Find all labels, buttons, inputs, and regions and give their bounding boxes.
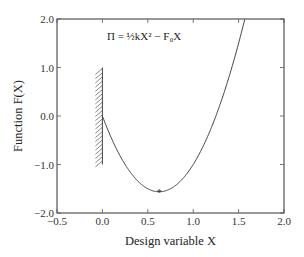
curve-line: [102, 19, 244, 192]
minimum-marker: *: [157, 187, 162, 198]
y-tick-label: 0.0: [40, 110, 54, 122]
y-tick-label: 2.0: [40, 13, 54, 25]
y-tick-label: 1.0: [40, 62, 54, 74]
svg-text:*: *: [157, 187, 162, 198]
y-tick-label: −1.0: [34, 159, 54, 171]
equation-annotation: Π = ½kX² − F₀X: [107, 30, 181, 42]
x-tick-label: 0.5: [141, 215, 155, 227]
x-tick-label: 1.0: [186, 215, 200, 227]
chart: * −0.50.00.51.01.52.0 −2.0−1.00.01.02.0 …: [0, 0, 304, 257]
x-tick-label: 1.5: [232, 215, 246, 227]
x-axis-label: Design variable X: [125, 234, 216, 248]
x-axis-ticks: −0.50.00.51.01.52.0: [47, 19, 291, 227]
x-tick-label: 2.0: [277, 215, 291, 227]
plot-frame: [57, 19, 284, 213]
wall-hatching: [95, 68, 102, 167]
x-tick-label: 0.0: [96, 215, 110, 227]
y-axis-label: Function F(X): [11, 80, 25, 152]
plot-area: [57, 19, 284, 213]
y-tick-label: −2.0: [34, 207, 54, 219]
